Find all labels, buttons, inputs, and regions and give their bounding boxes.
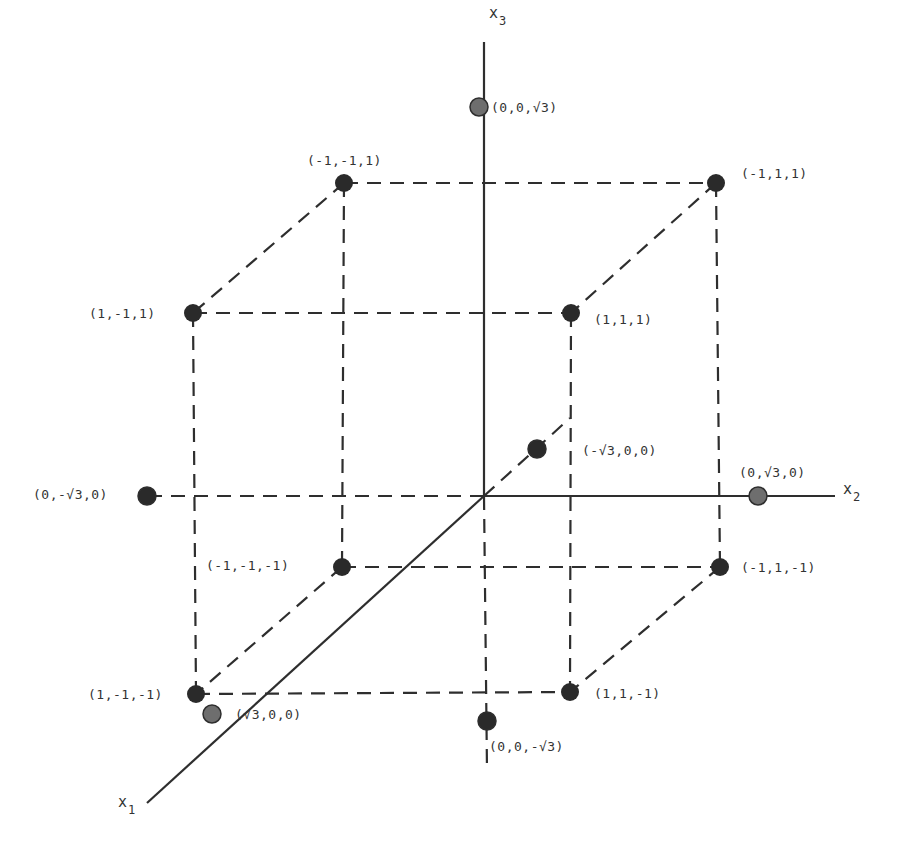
dashed-edge [196, 692, 570, 694]
axis-point [528, 440, 546, 458]
dashed-edge [193, 183, 344, 313]
dashed-edge [196, 567, 342, 694]
cube-vertex-point [562, 304, 580, 322]
axis-label-x3: x3 [489, 4, 506, 28]
axis-point-label: (0,-√3,0) [33, 487, 108, 502]
vertex-label: (-1,-1,1) [307, 153, 382, 168]
cube-vertex-point [184, 304, 202, 322]
cube-vertex-point [187, 685, 205, 703]
dashed-edge [570, 567, 720, 692]
axis-point [470, 98, 488, 116]
cube-vertex-point [707, 174, 725, 192]
cube-vertex-point [333, 558, 351, 576]
axis-x1 [147, 496, 484, 803]
vertex-label: (1,1,1) [594, 312, 652, 327]
axis-point-label: (0,√3,0) [739, 465, 806, 480]
vertex-label: (-1,1,1) [741, 166, 808, 181]
axis-point-label: (√3,0,0) [235, 707, 302, 722]
vertex-label: (1,1,-1) [594, 686, 661, 701]
vertex-label: (1,-1,-1) [88, 687, 163, 702]
axis-point [478, 712, 496, 730]
dashed-cube-edges [147, 183, 720, 770]
cube-vertex-point [711, 558, 729, 576]
axis-point [203, 705, 221, 723]
vertex-label: (-1,1,-1) [741, 560, 816, 575]
dashed-edge [716, 183, 720, 567]
dashed-edge [342, 183, 344, 567]
axis-point-label: (0,0,-√3) [489, 739, 564, 754]
cube-coordinate-diagram: x1x2x3(-1,-1,1)(-1,1,1)(1,-1,1)(1,1,1)(-… [0, 0, 898, 847]
cube-vertex-point [335, 174, 353, 192]
axis-label-x1: x1 [118, 793, 135, 817]
axis-point-label: (-√3,0,0) [582, 443, 657, 458]
points [138, 98, 767, 730]
dashed-edge [193, 313, 196, 694]
labels: x1x2x3(-1,-1,1)(-1,1,1)(1,-1,1)(1,1,1)(-… [33, 4, 860, 817]
coordinate-axes [147, 42, 835, 803]
vertex-label: (1,-1,1) [89, 306, 156, 321]
dashed-edge [570, 313, 571, 692]
vertex-label: (-1,-1,-1) [206, 558, 289, 573]
axis-point [138, 487, 156, 505]
cube-vertex-point [561, 683, 579, 701]
axis-point [749, 487, 767, 505]
dashed-edge [484, 418, 570, 496]
axis-label-x2: x2 [843, 480, 860, 504]
axis-point-label: (0,0,√3) [491, 100, 558, 115]
dashed-edge [571, 183, 716, 313]
